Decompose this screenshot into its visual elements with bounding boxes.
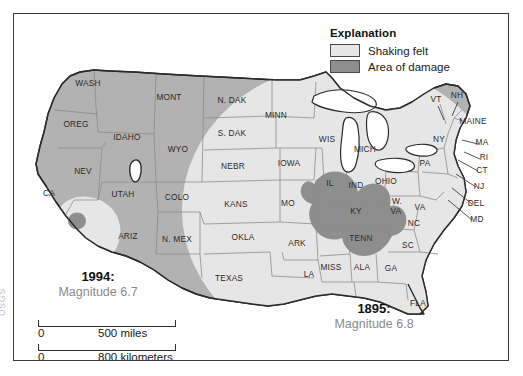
state-label-mich: MICH (354, 144, 376, 154)
state-label-nc: NC (408, 218, 420, 228)
map-frame: WASHOREGCANEVIDAHOMONTWYOUTAHARIZCOLON. … (13, 13, 509, 361)
state-label-va: VA (415, 202, 426, 212)
state-label-ky: KY (350, 206, 362, 216)
scale-bar-miles-tick-right (175, 320, 176, 327)
state-label-tenn: TENN (349, 233, 372, 243)
area-of-damage-swatch (330, 60, 360, 73)
quake-1895-year: 1895: (314, 302, 434, 317)
state-label-nj: NJ (474, 181, 485, 191)
state-label-nev: NEV (74, 166, 92, 176)
state-label-sc: SC (402, 240, 414, 250)
annotation-quake-1895: 1895: Magnitude 6.8 (314, 302, 434, 332)
state-label-md: MD (470, 214, 483, 224)
state-label-il: IL (326, 178, 334, 188)
scale-km-zero: 0 (38, 351, 44, 361)
legend-item-shaking-felt: Shaking felt (330, 44, 490, 57)
scale-bar-kilometers: 0 800 kilometers (38, 344, 176, 361)
state-label-ind: IND (349, 180, 364, 190)
state-label-idaho: IDAHO (113, 132, 141, 142)
state-label-ga: GA (385, 263, 398, 273)
legend-label-shaking-felt: Shaking felt (368, 45, 428, 57)
quake-1994-year: 1994: (38, 270, 158, 285)
state-label-mont: MONT (156, 92, 181, 102)
scale-bar-miles-tick-left (38, 320, 39, 327)
annotation-quake-1994: 1994: Magnitude 6.7 (38, 270, 158, 300)
map-scale-bars: 0 500 miles 0 800 kilometers (38, 320, 176, 361)
state-label-ohio: OHIO (375, 176, 397, 186)
state-label-texas: TEXAS (215, 273, 243, 283)
legend-label-area-of-damage: Area of damage (368, 61, 450, 73)
state-label-pa: PA (420, 158, 431, 168)
state-label-s-dak: S. DAK (218, 128, 247, 138)
state-label-ny: NY (433, 134, 445, 144)
legend-title: Explanation (330, 27, 490, 39)
state-label-ca: CA (43, 188, 55, 198)
map-legend: Explanation Shaking felt Area of damage (330, 27, 490, 76)
state-label-maine: MAINE (459, 116, 487, 126)
state-label-vt: VT (430, 94, 441, 104)
state-label-ark: ARK (288, 238, 306, 248)
state-label-ct: CT (476, 165, 487, 175)
state-label-n-mex: N. MEX (162, 234, 192, 244)
scale-bar-km-tick-left (38, 344, 39, 351)
legend-item-area-of-damage: Area of damage (330, 60, 490, 73)
scale-bar-km-graphic (38, 344, 176, 351)
scale-km-value: 800 kilometers (98, 351, 173, 361)
state-label-n-dak: N. DAK (218, 95, 247, 105)
quake-1895-magnitude: Magnitude 6.8 (314, 317, 434, 332)
scale-bar-km-tick-right (175, 344, 176, 351)
state-label-miss: MISS (320, 262, 341, 272)
state-label-nebr: NEBR (221, 161, 245, 171)
state-label-wis: WIS (319, 134, 336, 144)
state-label-iowa: IOWA (278, 158, 301, 168)
state-label-ala: ALA (354, 262, 371, 272)
state-label-w-va: W. (392, 196, 402, 206)
state-label-colo: COLO (165, 192, 190, 202)
state-label-kans: KANS (224, 199, 248, 209)
state-label-wash: WASH (75, 78, 100, 88)
state-label-utah: UTAH (112, 189, 135, 199)
state-label-oreg: OREG (63, 119, 88, 129)
scale-bar-miles: 0 500 miles (38, 320, 176, 342)
usgs-credit: USGS (0, 276, 7, 316)
state-label-ariz: ARIZ (118, 231, 138, 241)
quake-1994-magnitude: Magnitude 6.7 (38, 285, 158, 300)
state-label-wyo: WYO (168, 144, 189, 154)
state-label-ri: RI (480, 152, 489, 162)
state-label-nh: NH (451, 90, 463, 100)
scale-miles-value: 500 miles (98, 327, 147, 339)
scale-bar-miles-labels: 0 500 miles (38, 327, 176, 342)
state-label-minn: MINN (265, 110, 287, 120)
state-label-del: DEL (468, 198, 485, 208)
state-label-la: LA (304, 269, 315, 279)
state-label-okla: OKLA (232, 232, 255, 242)
state-label-mo: MO (281, 198, 295, 208)
scale-bar-km-labels: 0 800 kilometers (38, 351, 176, 361)
shaking-felt-swatch (330, 44, 360, 57)
state-label-w-va-2: VA (391, 206, 402, 216)
scale-bar-miles-graphic (38, 320, 176, 327)
scale-miles-zero: 0 (38, 327, 44, 339)
earthquake-comparison-figure: USGS (0, 0, 523, 376)
state-label-ma: MA (476, 137, 489, 147)
